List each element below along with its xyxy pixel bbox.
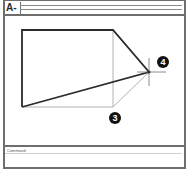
svg-text:3: 3 [112, 113, 117, 123]
marker-3-badge: 3 [109, 112, 121, 124]
marker-4-badge: 4 [157, 56, 169, 68]
drawing-canvas[interactable]: 4 3 [0, 0, 190, 171]
polygon-outline[interactable] [22, 30, 149, 107]
svg-text:4: 4 [160, 57, 165, 67]
